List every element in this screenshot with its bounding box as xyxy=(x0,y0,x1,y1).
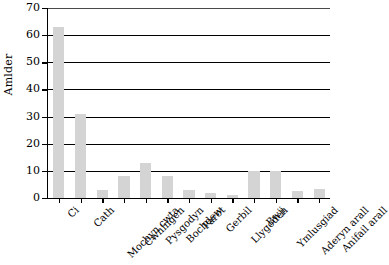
x-tick-label: Ci xyxy=(66,205,81,220)
x-tick-mark xyxy=(81,198,82,203)
bar xyxy=(314,189,325,199)
y-tick-label: 40 xyxy=(0,83,40,94)
bar xyxy=(140,163,151,198)
x-tick-mark xyxy=(319,198,320,203)
x-tick-label: Parot xyxy=(201,205,227,231)
y-tick-label: 20 xyxy=(0,138,40,149)
y-tick-mark xyxy=(42,171,48,172)
bar xyxy=(248,171,259,198)
x-tick-mark xyxy=(59,198,60,203)
y-tick-mark xyxy=(42,198,48,199)
bar xyxy=(118,176,129,198)
y-axis-spine xyxy=(47,8,48,198)
y-tick-label: 10 xyxy=(0,165,40,176)
y-tick-label: 60 xyxy=(0,29,40,40)
y-tick-label: 70 xyxy=(0,2,40,13)
x-tick-mark xyxy=(189,198,190,203)
x-tick-label: Gerbil xyxy=(224,205,253,234)
plot-area xyxy=(48,8,330,198)
x-tick-mark xyxy=(102,198,103,203)
bar xyxy=(97,190,108,198)
bar xyxy=(270,171,281,198)
y-tick-mark xyxy=(42,89,48,90)
y-tick-label: 30 xyxy=(0,111,40,122)
x-tick-mark xyxy=(146,198,147,203)
y-tick-label: 50 xyxy=(0,56,40,67)
x-tick-mark xyxy=(167,198,168,203)
x-tick-mark xyxy=(124,198,125,203)
x-tick-mark xyxy=(211,198,212,203)
bars-group xyxy=(48,8,330,198)
x-tick-label: Cath xyxy=(92,205,116,229)
x-tick-mark xyxy=(254,198,255,203)
bar xyxy=(183,190,194,198)
y-tick-mark xyxy=(42,62,48,63)
y-tick-mark xyxy=(42,144,48,145)
y-axis-title: Amlder xyxy=(2,37,15,113)
x-tick-mark xyxy=(232,198,233,203)
bar xyxy=(162,176,173,198)
y-tick-mark xyxy=(42,117,48,118)
x-tick-mark xyxy=(276,198,277,203)
y-tick-mark xyxy=(42,35,48,36)
bar xyxy=(292,191,303,198)
x-tick-mark xyxy=(297,198,298,203)
bar xyxy=(53,27,64,198)
y-tick-label: 0 xyxy=(0,192,40,203)
bar xyxy=(75,114,86,198)
y-tick-mark xyxy=(42,8,48,9)
